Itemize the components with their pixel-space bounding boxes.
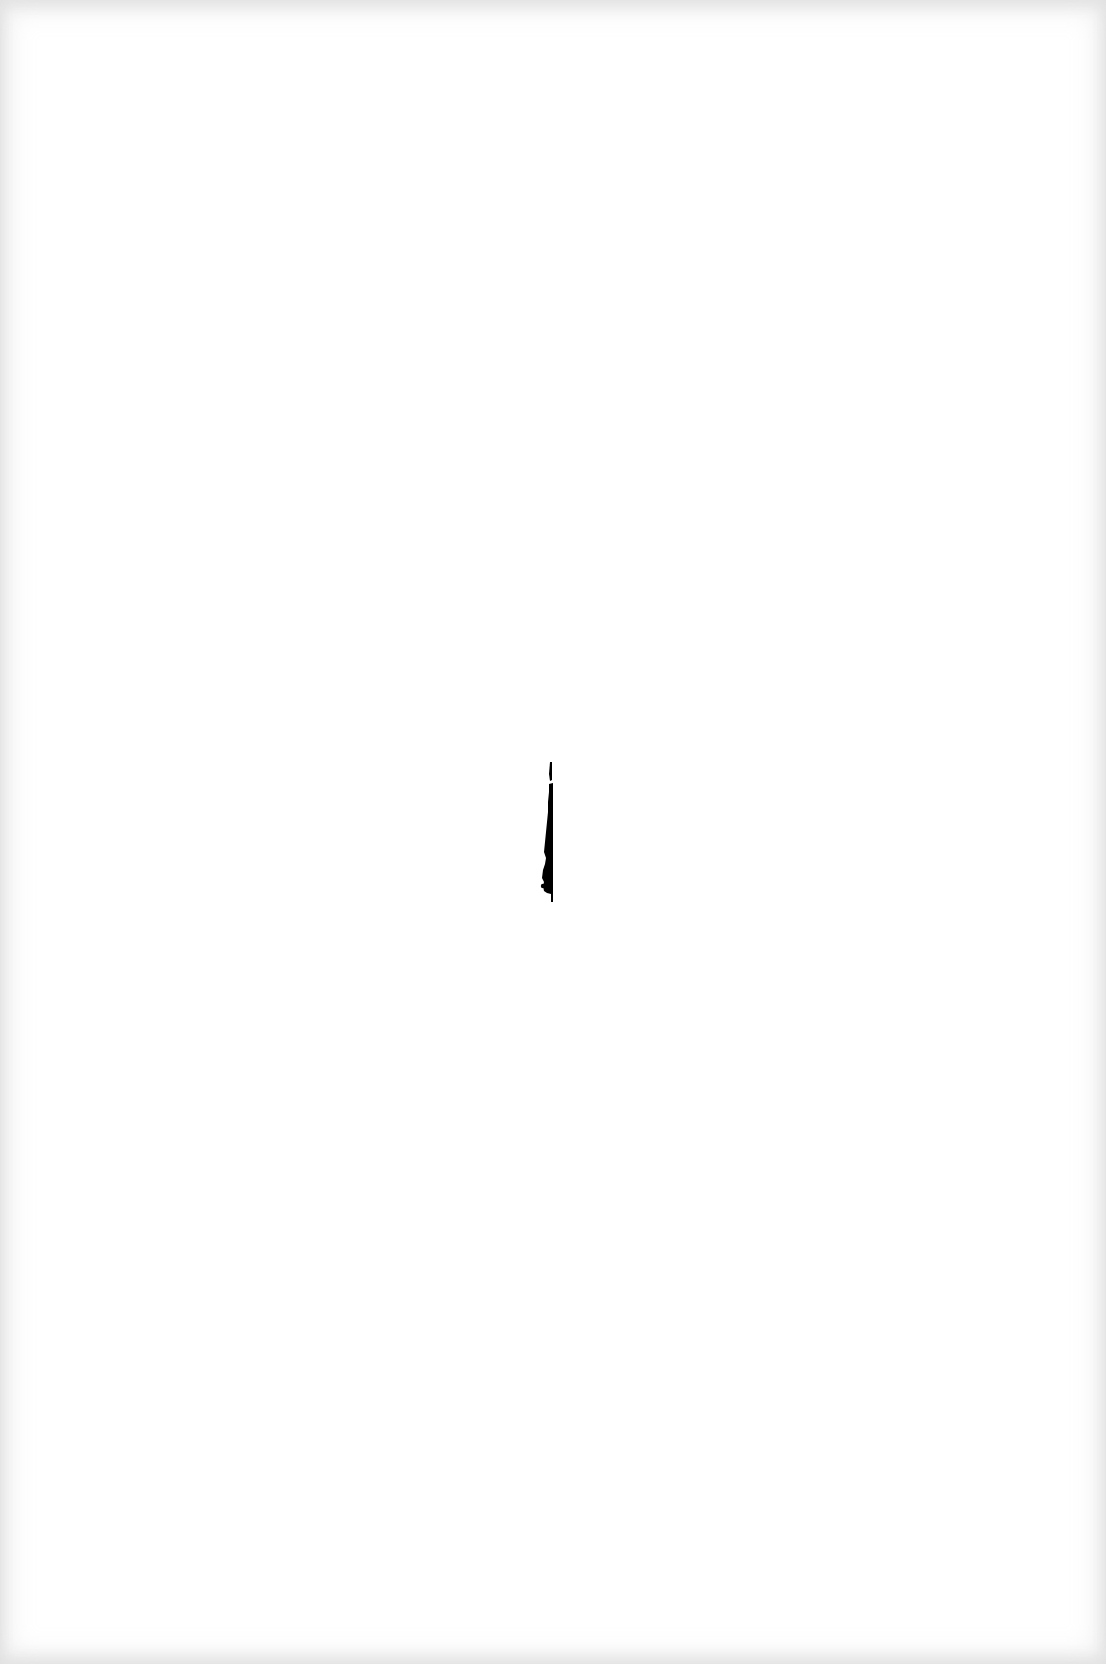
ink-mark-artifact xyxy=(538,762,554,902)
blank-document-page xyxy=(0,0,1106,1664)
ink-mark-icon xyxy=(538,762,554,902)
